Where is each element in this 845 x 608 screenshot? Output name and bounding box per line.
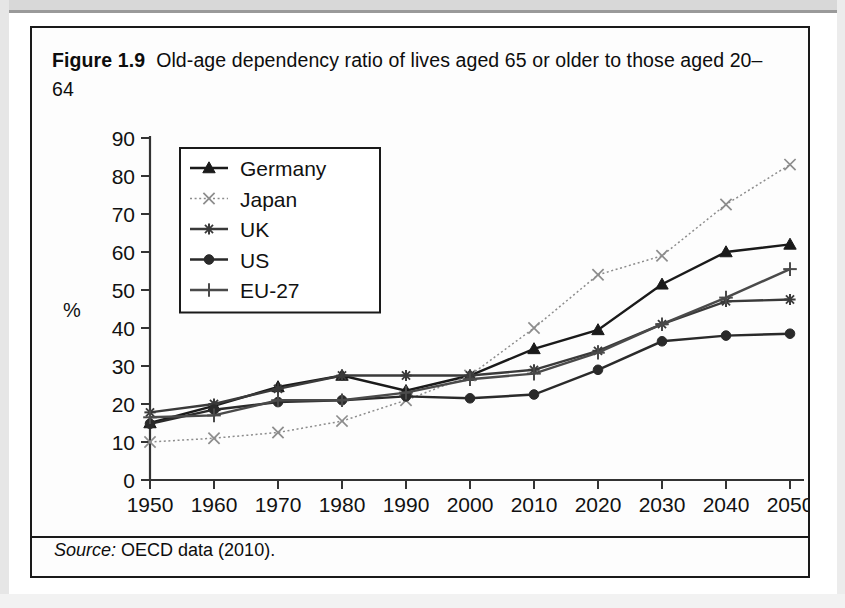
x-tick-label: 1950 [127, 493, 174, 516]
legend-label: US [240, 249, 269, 272]
data-point-marker [336, 370, 347, 381]
chart-plot-area: 0102030405060708090195019601970198019902… [32, 124, 808, 524]
source-note: Source: OECD data (2010). [54, 540, 275, 561]
x-tick-label: 2030 [639, 493, 686, 516]
data-point-marker [721, 331, 731, 341]
x-tick-label: 2020 [575, 493, 622, 516]
data-point-marker [272, 383, 283, 394]
x-tick-label: 1970 [255, 493, 302, 516]
data-point-marker [784, 159, 795, 170]
legend-label: Japan [240, 188, 297, 211]
scan-artifact-top-line [0, 10, 845, 13]
data-point-marker [592, 269, 603, 280]
data-point-marker [204, 255, 214, 265]
y-tick-label: 30 [112, 355, 135, 378]
y-tick-label: 40 [112, 317, 135, 340]
source-label: Source: [54, 540, 116, 560]
y-tick-label: 90 [112, 127, 135, 150]
figure-caption-spacer [145, 49, 156, 71]
y-tick-label: 20 [112, 393, 135, 416]
data-point-marker [657, 337, 667, 347]
data-point-marker [784, 294, 795, 305]
data-point-marker [529, 390, 539, 400]
y-tick-label: 50 [112, 279, 135, 302]
source-text: OECD data (2010). [121, 540, 275, 560]
data-point-marker [203, 223, 214, 234]
chart-legend: GermanyJapanUKUSEU-27 [180, 148, 380, 313]
data-point-marker [656, 250, 667, 261]
data-point-marker [593, 365, 603, 375]
data-point-marker [465, 394, 475, 404]
line-chart: 0102030405060708090195019601970198019902… [32, 124, 808, 524]
legend-label: Germany [240, 157, 327, 180]
y-tick-label: 80 [112, 165, 135, 188]
figure-label: Figure 1.9 [52, 49, 145, 71]
y-tick-label: 70 [112, 203, 135, 226]
x-tick-label: 1960 [191, 493, 238, 516]
figure-container: Figure 1.9 Old-age dependency ratio of l… [30, 26, 810, 578]
data-point-marker [528, 322, 539, 333]
x-tick-label: 2050 [767, 493, 808, 516]
x-tick-label: 2040 [703, 493, 750, 516]
figure-caption-text: Old-age dependency ratio of lives aged 6… [52, 49, 762, 100]
source-divider [32, 536, 808, 538]
data-point-marker [785, 329, 795, 339]
legend-label: EU-27 [240, 279, 300, 302]
x-tick-label: 1990 [383, 493, 430, 516]
data-point-marker [400, 370, 411, 381]
data-point-marker [335, 393, 349, 407]
x-tick-label: 2010 [511, 493, 558, 516]
x-tick-label: 1980 [319, 493, 366, 516]
y-tick-label: 60 [112, 241, 135, 264]
data-point-marker [656, 278, 668, 289]
chart-axes: 0102030405060708090195019601970198019902… [63, 127, 808, 517]
figure-caption: Figure 1.9 Old-age dependency ratio of l… [52, 46, 782, 104]
data-point-marker [783, 262, 797, 276]
y-axis-title: % [63, 299, 81, 321]
data-point-marker [720, 199, 731, 210]
data-point-marker [655, 317, 669, 331]
scan-artifact-top [0, 0, 845, 10]
y-tick-label: 10 [112, 431, 135, 454]
y-tick-label: 0 [123, 469, 135, 492]
legend-label: UK [240, 218, 269, 241]
scan-artifact-right [837, 0, 845, 608]
scan-artifact-left [0, 0, 9, 608]
scan-artifact-bottom [0, 594, 845, 608]
data-point-marker [784, 238, 796, 249]
data-point-marker [271, 393, 285, 407]
x-tick-label: 2000 [447, 493, 494, 516]
